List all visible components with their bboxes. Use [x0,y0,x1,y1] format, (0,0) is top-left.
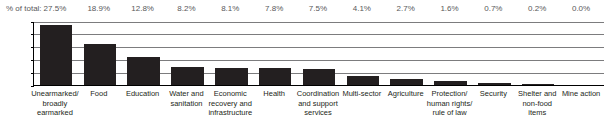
percent-of-total-value: 7.5% [296,2,340,15]
category-label-line: and support [292,99,344,109]
category-label-line: recovery and [204,99,256,109]
percent-of-total-value: 4.1% [340,2,384,15]
bar [347,76,379,85]
gridline [34,22,604,23]
category-label-line: non-food [511,99,563,109]
category-label-line: broadly [29,99,81,109]
category-labels-row: Unearmarked/broadlyearmarkedFoodEducatio… [0,89,609,134]
percent-of-total-value: 8.2% [165,2,209,15]
y-tick-mark [31,47,34,48]
bar [215,68,247,85]
percent-of-total-value: 27.5% [33,2,77,15]
category-label: Mine action [555,89,607,99]
y-tick-mark [31,60,34,61]
bar [84,44,116,85]
percent-of-total-value: 18.9% [77,2,121,15]
category-label-line: infrastructure [204,108,256,118]
y-tick-mark [31,73,34,74]
bar [40,25,72,85]
percent-of-total-row: % of total: 27.5%18.9%12.8%8.2%8.1%7.8%7… [0,2,609,15]
x-axis-line [34,85,604,86]
bar [259,68,291,85]
category-label-line: human rights/ [424,99,476,109]
category-label-line: Mine action [555,89,607,99]
percent-of-total-value: 0.0% [559,2,603,15]
gridline [34,60,604,61]
bar-chart: % of total: 27.5%18.9%12.8%8.2%8.1%7.8%7… [0,0,609,134]
y-tick-mark [31,86,34,87]
percent-of-total-value: 1.6% [428,2,472,15]
percent-of-total-value: 12.8% [121,2,165,15]
percent-of-total-value: 8.1% [208,2,252,15]
category-label-line: rule of law [424,108,476,118]
category-label-line: services [292,108,344,118]
bar [303,69,335,85]
bar [171,67,203,85]
y-tick-mark [31,34,34,35]
y-tick-mark [31,22,34,23]
category-label-line: earmarked [29,108,81,118]
percent-of-total-value: 0.2% [515,2,559,15]
plot-area: 0510152025 [33,22,604,86]
percent-of-total-value: 2.7% [384,2,428,15]
gridline [34,34,604,35]
percent-of-total-value: 7.8% [252,2,296,15]
percent-of-total-value: 0.7% [471,2,515,15]
bar [127,57,159,85]
gridline [34,47,604,48]
category-label-line: items [511,108,563,118]
